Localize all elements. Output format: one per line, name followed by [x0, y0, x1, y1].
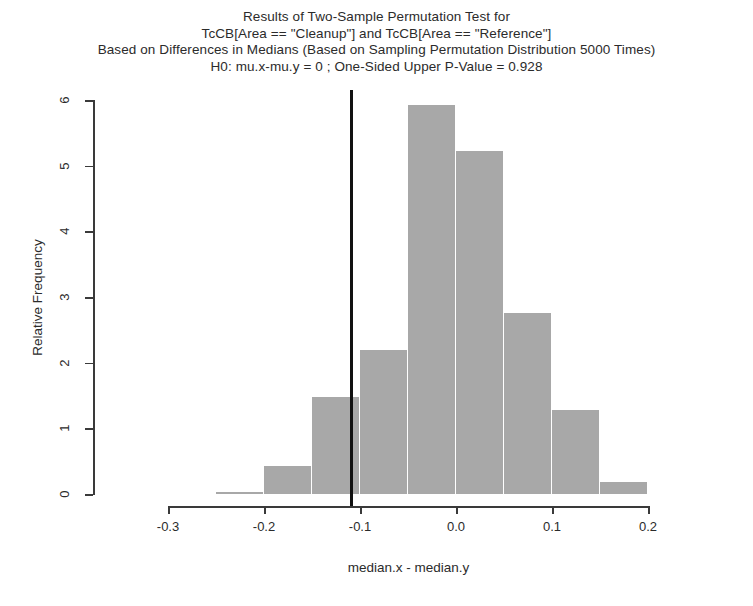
x-axis-tick-label: 0.0	[426, 519, 486, 534]
observed-statistic-line	[350, 90, 352, 506]
histogram-bar	[600, 482, 647, 494]
histogram-bar	[408, 105, 455, 494]
histogram-bar	[360, 350, 407, 494]
y-axis-tick	[85, 494, 93, 496]
x-axis-tick	[552, 506, 554, 514]
histogram-bar	[216, 492, 263, 494]
x-axis-tick-label: -0.3	[138, 519, 198, 534]
x-axis-tick	[456, 506, 458, 514]
permutation-test-figure: Results of Two-Sample Permutation Test f…	[0, 0, 753, 606]
y-axis-tick	[85, 231, 93, 233]
y-axis-tick-label: 6	[57, 87, 73, 113]
x-axis-tick	[360, 506, 362, 514]
x-axis-tick	[648, 506, 650, 514]
x-axis-tick-label: -0.1	[330, 519, 390, 534]
y-axis-tick	[85, 363, 93, 365]
y-axis-tick	[85, 166, 93, 168]
y-axis-tick-label: 3	[57, 284, 73, 310]
x-axis-tick	[264, 506, 266, 514]
histogram-bar	[264, 466, 311, 494]
y-axis-line	[93, 100, 95, 495]
y-axis-title: Relative Frequency	[30, 198, 45, 398]
y-axis-tick	[85, 297, 93, 299]
y-axis-tick-label: 4	[57, 218, 73, 244]
y-axis-tick-label: 1	[57, 415, 73, 441]
x-axis-tick	[168, 506, 170, 514]
y-axis-tick-label: 2	[57, 350, 73, 376]
plot-area: 0123456-0.3-0.2-0.10.00.10.2 Relative Fr…	[0, 0, 753, 606]
y-axis-tick	[85, 428, 93, 430]
x-axis-tick-label: 0.2	[618, 519, 678, 534]
x-axis-tick-label: 0.1	[522, 519, 582, 534]
x-axis-title: median.x - median.y	[168, 560, 649, 575]
histogram-bar	[456, 151, 503, 494]
x-axis-tick-label: -0.2	[234, 519, 294, 534]
histogram-bar	[552, 410, 599, 494]
y-axis-tick	[85, 100, 93, 102]
x-axis-line	[168, 506, 649, 508]
y-axis-tick-label: 5	[57, 153, 73, 179]
y-axis-tick-label: 0	[57, 481, 73, 507]
histogram-bar	[504, 313, 551, 494]
